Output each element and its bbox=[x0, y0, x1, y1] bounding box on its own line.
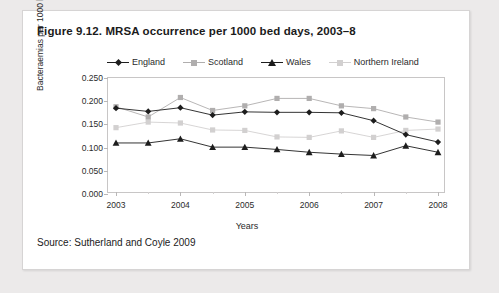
data-point-diamond-icon bbox=[274, 109, 280, 115]
legend-swatch-square-icon bbox=[183, 58, 205, 67]
legend-label: Northern Ireland bbox=[354, 57, 419, 67]
legend-label: Scotland bbox=[208, 57, 243, 67]
data-point-diamond-icon bbox=[242, 109, 248, 115]
x-tick-mark bbox=[374, 192, 375, 196]
data-point-square-icon bbox=[146, 119, 151, 124]
legend-label: England bbox=[132, 57, 165, 67]
y-tick-mark bbox=[104, 194, 108, 195]
x-tick-minor-mark bbox=[277, 192, 278, 194]
y-tick-label: 0.100 bbox=[82, 143, 103, 153]
legend-item-scotland: Scotland bbox=[183, 57, 243, 67]
data-point-triangle-icon bbox=[177, 135, 184, 141]
data-point-square-icon bbox=[403, 114, 408, 119]
y-axis-label: Bacteraemias per 1000 bed days bbox=[35, 0, 45, 91]
figure-card: Figure 9.12. MRSA occurrence per 1000 be… bbox=[22, 10, 470, 270]
data-point-square-icon bbox=[339, 128, 344, 133]
data-point-square-icon bbox=[113, 125, 118, 130]
x-tick-mark bbox=[116, 192, 117, 196]
legend-item-england: England bbox=[107, 57, 165, 67]
legend-item-northern-ireland: Northern Ireland bbox=[329, 57, 419, 67]
legend-swatch-triangle-icon bbox=[261, 58, 283, 67]
x-tick-label: 2006 bbox=[300, 200, 319, 210]
data-point-diamond-icon bbox=[145, 108, 151, 114]
data-point-square-icon bbox=[210, 127, 215, 132]
data-point-square-icon bbox=[242, 128, 247, 133]
y-tick-label: 0.250 bbox=[82, 73, 103, 83]
y-tick-mark bbox=[104, 78, 108, 79]
data-point-square-icon bbox=[435, 126, 440, 131]
chart-plot-wrapper: Bacteraemias per 1000 bed days 0.0000.05… bbox=[37, 73, 457, 233]
y-tick-mark bbox=[104, 101, 108, 102]
y-tick-mark bbox=[104, 171, 108, 172]
x-tick-mark bbox=[245, 192, 246, 196]
x-axis-label: Years bbox=[37, 221, 457, 231]
y-tick-label: 0.000 bbox=[82, 189, 103, 199]
data-point-square-icon bbox=[242, 103, 247, 108]
y-tick-mark bbox=[104, 124, 108, 125]
y-tick-mark bbox=[104, 148, 108, 149]
y-tick-label: 0.200 bbox=[82, 96, 103, 106]
data-point-diamond-icon bbox=[338, 110, 344, 116]
source-note: Source: Sutherland and Coyle 2009 bbox=[37, 237, 195, 248]
data-point-diamond-icon bbox=[177, 105, 183, 111]
x-tick-label: 2005 bbox=[235, 200, 254, 210]
data-point-diamond-icon bbox=[306, 109, 312, 115]
plot-area: 0.0000.0500.1000.1500.2000.2502003200420… bbox=[107, 77, 445, 193]
data-point-diamond-icon bbox=[435, 139, 441, 145]
y-tick-label: 0.050 bbox=[82, 166, 103, 176]
chart-canvas bbox=[108, 78, 446, 194]
data-point-square-icon bbox=[178, 120, 183, 125]
x-tick-label: 2004 bbox=[171, 200, 190, 210]
data-point-square-icon bbox=[371, 106, 376, 111]
x-tick-minor-mark bbox=[213, 192, 214, 194]
y-tick-label: 0.150 bbox=[82, 119, 103, 129]
data-point-square-icon bbox=[178, 95, 183, 100]
legend-swatch-square-icon bbox=[329, 58, 351, 67]
data-point-square-icon bbox=[371, 135, 376, 140]
page-title: Figure 9.12. MRSA occurrence per 1000 be… bbox=[37, 25, 356, 37]
chart-legend: EnglandScotlandWalesNorthern Ireland bbox=[107, 57, 419, 67]
data-point-square-icon bbox=[274, 134, 279, 139]
data-point-diamond-icon bbox=[371, 118, 377, 124]
data-point-square-icon bbox=[307, 135, 312, 140]
x-tick-minor-mark bbox=[406, 192, 407, 194]
data-point-square-icon bbox=[307, 96, 312, 101]
x-tick-mark bbox=[438, 192, 439, 196]
data-point-square-icon bbox=[274, 96, 279, 101]
x-tick-label: 2008 bbox=[429, 200, 448, 210]
x-tick-mark bbox=[309, 192, 310, 196]
series-northern-ireland bbox=[113, 119, 440, 140]
x-tick-minor-mark bbox=[148, 192, 149, 194]
legend-swatch-diamond-icon bbox=[107, 58, 129, 67]
x-tick-label: 2003 bbox=[107, 200, 126, 210]
data-point-triangle-icon bbox=[402, 142, 409, 148]
x-tick-minor-mark bbox=[341, 192, 342, 194]
legend-item-wales: Wales bbox=[261, 57, 311, 67]
data-point-square-icon bbox=[146, 114, 151, 119]
data-point-square-icon bbox=[435, 119, 440, 124]
data-point-square-icon bbox=[339, 103, 344, 108]
x-tick-label: 2007 bbox=[364, 200, 383, 210]
legend-label: Wales bbox=[286, 57, 311, 67]
x-tick-mark bbox=[180, 192, 181, 196]
